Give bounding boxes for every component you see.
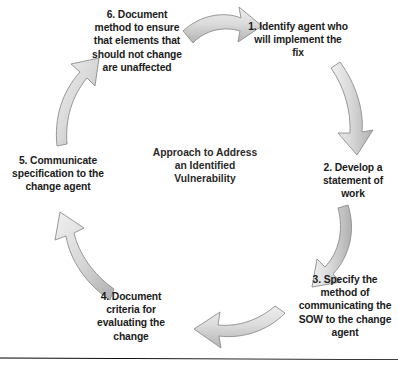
step-label-5: 5. Communicate specification to the chan… [4, 154, 112, 194]
step-label-2: 2. Develop a statement of work [312, 161, 394, 201]
center-caption: Approach to Address an Identified Vulner… [149, 146, 261, 186]
arrow-1-to-2 [331, 62, 373, 155]
horizontal-rule [0, 357, 398, 360]
step-label-4: 4. Document criteria for evaluating the … [85, 290, 177, 343]
arrow-4-to-5 [55, 212, 114, 300]
cycle-diagram: 6. Document method to ensure that elemen… [0, 0, 398, 374]
step-label-3: 3. Specify the method of communicating t… [296, 273, 394, 339]
arrow-3-to-4 [194, 306, 285, 348]
step-label-6: 6. Document method to ensure that elemen… [88, 8, 186, 74]
step-label-1: 1. Identify agent who will implement the… [248, 20, 348, 60]
